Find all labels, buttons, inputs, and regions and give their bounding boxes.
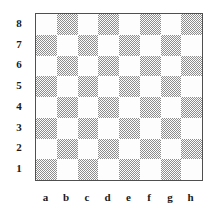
file-label-row: abcdefgh (35, 189, 201, 205)
square-h2[interactable] (181, 139, 202, 160)
square-h5[interactable] (181, 76, 202, 97)
square-g6[interactable] (161, 56, 182, 77)
square-f5[interactable] (140, 76, 161, 97)
square-f4[interactable] (140, 97, 161, 118)
square-a4[interactable] (36, 97, 57, 118)
square-b3[interactable] (57, 118, 78, 139)
square-f1[interactable] (140, 159, 161, 180)
square-d5[interactable] (98, 76, 119, 97)
rank-label-2: 2 (8, 138, 30, 159)
file-label-e: e (118, 189, 139, 205)
square-d6[interactable] (98, 56, 119, 77)
file-label-d: d (97, 189, 118, 205)
square-a1[interactable] (36, 159, 57, 180)
square-b4[interactable] (57, 97, 78, 118)
square-e1[interactable] (119, 159, 140, 180)
square-a2[interactable] (36, 139, 57, 160)
file-label-c: c (77, 189, 98, 205)
chessboard-grid[interactable] (36, 14, 202, 180)
square-f7[interactable] (140, 35, 161, 56)
square-a8[interactable] (36, 14, 57, 35)
square-f8[interactable] (140, 14, 161, 35)
square-h4[interactable] (181, 97, 202, 118)
file-label-h: h (180, 189, 201, 205)
square-g5[interactable] (161, 76, 182, 97)
square-g3[interactable] (161, 118, 182, 139)
square-g4[interactable] (161, 97, 182, 118)
square-c4[interactable] (78, 97, 99, 118)
file-label-g: g (160, 189, 181, 205)
square-e7[interactable] (119, 35, 140, 56)
square-b2[interactable] (57, 139, 78, 160)
square-h1[interactable] (181, 159, 202, 180)
file-label-b: b (56, 189, 77, 205)
square-h7[interactable] (181, 35, 202, 56)
rank-label-1: 1 (8, 158, 30, 179)
square-d8[interactable] (98, 14, 119, 35)
chessboard-figure: 87654321 abcdefgh (0, 0, 214, 212)
square-g8[interactable] (161, 14, 182, 35)
file-label-f: f (139, 189, 160, 205)
square-e2[interactable] (119, 139, 140, 160)
square-c2[interactable] (78, 139, 99, 160)
square-g7[interactable] (161, 35, 182, 56)
chessboard-frame (35, 13, 203, 181)
square-h8[interactable] (181, 14, 202, 35)
square-a6[interactable] (36, 56, 57, 77)
square-b6[interactable] (57, 56, 78, 77)
square-c7[interactable] (78, 35, 99, 56)
square-e5[interactable] (119, 76, 140, 97)
square-d2[interactable] (98, 139, 119, 160)
square-e8[interactable] (119, 14, 140, 35)
square-b1[interactable] (57, 159, 78, 180)
square-a5[interactable] (36, 76, 57, 97)
rank-label-6: 6 (8, 55, 30, 76)
square-c6[interactable] (78, 56, 99, 77)
rank-label-5: 5 (8, 75, 30, 96)
square-c8[interactable] (78, 14, 99, 35)
square-d3[interactable] (98, 118, 119, 139)
square-c1[interactable] (78, 159, 99, 180)
square-d4[interactable] (98, 97, 119, 118)
square-a3[interactable] (36, 118, 57, 139)
square-h3[interactable] (181, 118, 202, 139)
square-c3[interactable] (78, 118, 99, 139)
square-e3[interactable] (119, 118, 140, 139)
square-b8[interactable] (57, 14, 78, 35)
square-e6[interactable] (119, 56, 140, 77)
rank-label-column: 87654321 (8, 13, 30, 179)
file-label-a: a (35, 189, 56, 205)
rank-label-8: 8 (8, 13, 30, 34)
square-f3[interactable] (140, 118, 161, 139)
rank-label-4: 4 (8, 96, 30, 117)
square-f2[interactable] (140, 139, 161, 160)
square-g1[interactable] (161, 159, 182, 180)
square-c5[interactable] (78, 76, 99, 97)
rank-label-7: 7 (8, 34, 30, 55)
square-g2[interactable] (161, 139, 182, 160)
square-h6[interactable] (181, 56, 202, 77)
square-f6[interactable] (140, 56, 161, 77)
square-d7[interactable] (98, 35, 119, 56)
square-b7[interactable] (57, 35, 78, 56)
square-a7[interactable] (36, 35, 57, 56)
square-e4[interactable] (119, 97, 140, 118)
square-d1[interactable] (98, 159, 119, 180)
square-b5[interactable] (57, 76, 78, 97)
rank-label-3: 3 (8, 117, 30, 138)
